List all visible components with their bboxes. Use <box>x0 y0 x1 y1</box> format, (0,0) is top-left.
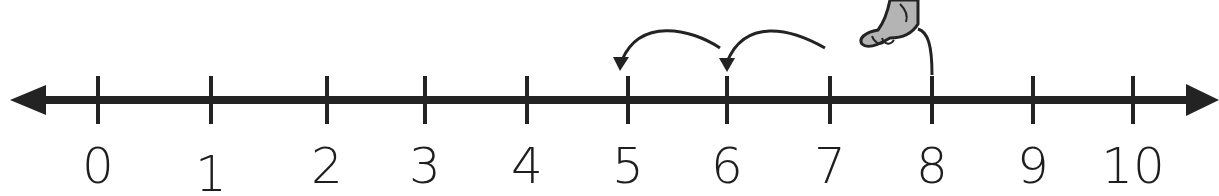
tick-label: 8 <box>916 138 948 194</box>
tick-label: 2 <box>311 138 343 194</box>
tick-label: 3 <box>409 138 441 194</box>
hop-launch-line-8 <box>918 29 932 75</box>
hop-arrow-7-6 <box>727 31 825 62</box>
left-arrow-icon <box>10 85 46 115</box>
tick-label: 10 <box>1101 138 1165 194</box>
animal-foot-icon <box>861 0 918 46</box>
tick-label: 7 <box>814 138 846 194</box>
right-arrow-icon <box>1186 84 1219 116</box>
tick-label: 6 <box>711 138 743 194</box>
tick-label: 1 <box>195 146 227 196</box>
tick-label: 0 <box>82 138 114 194</box>
tick-label: 4 <box>511 138 543 194</box>
arrowhead-icon <box>613 57 629 71</box>
arrowhead-icon <box>719 58 735 72</box>
number-line-diagram: 012345678910 <box>0 0 1219 196</box>
hop-arrow-6-5 <box>622 31 720 60</box>
tick-label: 9 <box>1017 138 1049 194</box>
tick-label: 5 <box>612 138 644 194</box>
